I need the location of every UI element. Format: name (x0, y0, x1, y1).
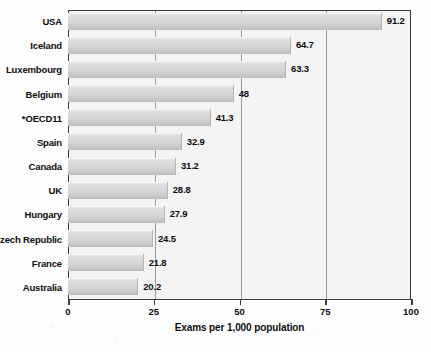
bar (68, 206, 165, 223)
bar-value-label: 31.2 (181, 157, 199, 174)
bar-row: Canada31.2 (68, 155, 411, 179)
bar-row: Luxembourg63.3 (68, 58, 411, 82)
bar-value-label: 24.5 (158, 230, 176, 247)
category-label: Czech Republic (0, 228, 62, 252)
bar-row: Iceland64.7 (68, 34, 411, 58)
bar-value-label: 21.8 (149, 254, 167, 271)
category-label: France (32, 252, 62, 276)
bar-row: Hungary27.9 (68, 203, 411, 227)
bar-row: France21.8 (68, 252, 411, 276)
bar-value-label: 48 (239, 85, 249, 102)
x-tick-label: 100 (403, 306, 419, 317)
bar (68, 37, 291, 54)
bar (68, 230, 153, 247)
category-label: USA (42, 10, 62, 34)
bar (68, 13, 382, 30)
category-label: Canada (29, 155, 62, 179)
category-label: UK (49, 179, 62, 203)
category-label: Iceland (30, 34, 62, 58)
bar-value-label: 20.2 (143, 278, 161, 295)
x-tick-mark-75 (325, 299, 327, 305)
bar (68, 85, 234, 102)
x-tick-mark-100 (411, 299, 413, 305)
bar (68, 61, 286, 78)
bar (68, 182, 168, 199)
bar-rows: USA91.2Iceland64.7Luxembourg63.3Belgium4… (68, 10, 411, 300)
x-tick-label: 75 (320, 306, 331, 317)
bar-row: Czech Republic24.5 (68, 228, 411, 252)
x-tick-mark-0 (68, 299, 70, 305)
category-label: Spain (37, 131, 62, 155)
category-label: *OECD11 (22, 107, 62, 131)
category-label: Hungary (25, 203, 62, 227)
bar-row: UK28.8 (68, 179, 411, 203)
x-tick-mark-50 (240, 299, 242, 305)
bar (68, 254, 144, 271)
bar-value-label: 41.3 (216, 109, 234, 126)
bar-value-label: 63.3 (291, 60, 309, 77)
bar-value-label: 64.7 (296, 36, 314, 53)
x-axis: 0255075100 (68, 300, 411, 316)
bar-value-label: 28.8 (173, 181, 191, 198)
bar-row: Australia20.2 (68, 276, 411, 300)
bar-value-label: 32.9 (187, 133, 205, 150)
bar-row: *OECD1141.3 (68, 107, 411, 131)
bar-row: Belgium48 (68, 83, 411, 107)
category-label: Australia (23, 276, 62, 300)
x-tick-label: 25 (148, 306, 159, 317)
bar-chart-figure: USA91.2Iceland64.7Luxembourg63.3Belgium4… (0, 0, 431, 352)
category-label: Luxembourg (6, 58, 62, 82)
category-label: Belgium (26, 83, 62, 107)
bar-row: USA91.2 (68, 10, 411, 34)
bar-value-label: 91.2 (387, 12, 405, 29)
bar (68, 278, 138, 295)
x-tick-label: 50 (234, 306, 245, 317)
bar-row: Spain32.9 (68, 131, 411, 155)
x-axis-title: Exams per 1,000 population (68, 322, 411, 333)
bar (68, 133, 182, 150)
bar-value-label: 27.9 (170, 205, 188, 222)
x-tick-mark-25 (154, 299, 156, 305)
x-tick-label: 0 (65, 306, 70, 317)
bar (68, 109, 211, 126)
bar (68, 158, 176, 175)
